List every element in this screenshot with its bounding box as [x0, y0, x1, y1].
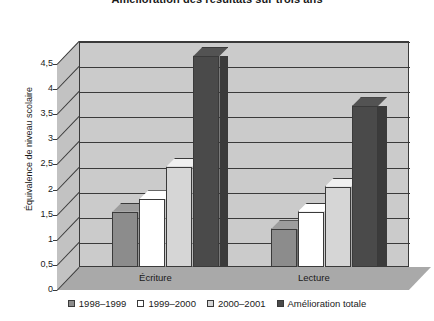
chart-legend: 1998–19991999–20002000–2001Amélioration … — [0, 298, 434, 309]
legend-item[interactable]: 1999–2000 — [137, 298, 196, 309]
legend-label: 2000–2001 — [218, 298, 266, 309]
legend-swatch-icon — [137, 300, 144, 307]
x-axis-label: Écriture — [95, 272, 215, 283]
legend-swatch-icon — [207, 300, 214, 307]
legend-swatch-icon — [277, 300, 284, 307]
legend-label: Amélioration totale — [288, 298, 367, 309]
legend-swatch-icon — [68, 300, 75, 307]
legend-item[interactable]: 2000–2001 — [207, 298, 266, 309]
x-axis-label: Lecture — [254, 272, 374, 283]
legend-label: 1998–1999 — [79, 298, 127, 309]
x-axis-labels: ÉcritureLecture — [0, 0, 434, 321]
legend-item[interactable]: Amélioration totale — [277, 298, 367, 309]
legend-label: 1999–2000 — [148, 298, 196, 309]
legend-item[interactable]: 1998–1999 — [68, 298, 127, 309]
